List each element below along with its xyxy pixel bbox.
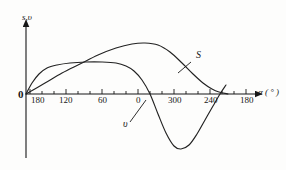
curve-velocity-v xyxy=(26,62,226,149)
curve-label-v: υ xyxy=(123,119,128,129)
x-axis-label: α ( ° ) xyxy=(258,88,279,97)
x-tick-label-0: 180 xyxy=(31,96,45,105)
figure-container: s,υ α ( ° ) 0 180 120 60 0 300 240 180 S… xyxy=(0,0,286,170)
origin-label: 0 xyxy=(18,89,24,100)
y-axis-label: s,υ xyxy=(22,13,32,22)
x-tick-label-4: 300 xyxy=(168,96,182,105)
x-tick-label-6: 180 xyxy=(240,96,254,105)
leader-line-s xyxy=(178,62,191,73)
curve-label-s: S xyxy=(196,50,201,60)
x-tick-label-1: 120 xyxy=(59,96,73,105)
x-tick-label-5: 240 xyxy=(204,96,218,105)
x-tick-label-2: 60 xyxy=(98,96,107,105)
x-tick-label-3: 0 xyxy=(136,96,141,105)
chart-plot xyxy=(0,0,286,170)
